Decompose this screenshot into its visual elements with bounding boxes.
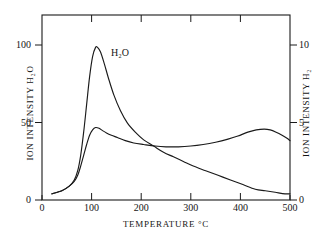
y-axis-left-ticks	[35, 45, 42, 200]
xtick-label-300: 300	[176, 202, 206, 213]
xtick-label-200: 200	[126, 202, 156, 213]
ytick-left-label-0: 0	[1, 194, 31, 205]
curve-annotation-h2o: H₂O	[111, 47, 129, 58]
xtick-label-0: 0	[27, 202, 57, 213]
y-axis-left-title: ION INTENSITY H₂O	[25, 38, 35, 188]
ytick-right-label-0: 0	[299, 194, 329, 205]
y-axis-right-ticks	[290, 45, 297, 200]
xtick-label-100: 100	[77, 202, 107, 213]
chart-figure: 0 100 200 300 400 500 0 50 100 0 5 10 IO…	[0, 0, 329, 240]
xtick-label-400: 400	[225, 202, 255, 213]
x-axis-title: TEMPERATURE °C	[42, 219, 290, 229]
y-axis-right-title: ION INTENSITY H₂	[301, 38, 311, 188]
